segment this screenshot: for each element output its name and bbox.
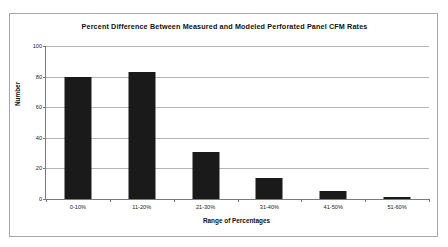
y-axis-title: Number xyxy=(14,82,21,106)
x-tick-label: 21-30% xyxy=(174,204,238,210)
x-tick-mark xyxy=(46,199,47,202)
bar-slot: 0-10% xyxy=(46,46,110,199)
bar-slot: 31-40% xyxy=(238,46,302,199)
x-tick-mark xyxy=(110,199,111,202)
x-tick-mark xyxy=(429,199,430,202)
bar-slot: 41-50% xyxy=(301,46,365,199)
bar-slot: 51-60% xyxy=(365,46,429,199)
chart-frame: Percent Difference Between Measured and … xyxy=(9,13,438,237)
y-tick-label: 40 xyxy=(36,135,42,141)
bar xyxy=(128,72,155,199)
x-tick-label: 41-50% xyxy=(301,204,365,210)
x-tick-label: 31-40% xyxy=(238,204,302,210)
bar xyxy=(320,191,347,199)
y-tick-label: 20 xyxy=(36,165,42,171)
x-tick-mark xyxy=(174,199,175,202)
bar-slot: 11-20% xyxy=(110,46,174,199)
bar-slot: 21-30% xyxy=(174,46,238,199)
y-tick-label: 60 xyxy=(36,104,42,110)
bar xyxy=(256,178,283,199)
y-tick-label: 100 xyxy=(33,43,42,49)
x-tick-mark xyxy=(301,199,302,202)
x-tick-label: 0-10% xyxy=(46,204,110,210)
x-tick-mark xyxy=(365,199,366,202)
chart-screenshot: Percent Difference Between Measured and … xyxy=(0,0,448,247)
x-axis-title: Range of Percentages xyxy=(45,217,428,224)
chart-title: Percent Difference Between Measured and … xyxy=(10,22,439,31)
x-tick-label: 51-60% xyxy=(365,204,429,210)
y-tick-label: 80 xyxy=(36,74,42,80)
x-tick-mark xyxy=(238,199,239,202)
bar xyxy=(192,152,219,199)
bar xyxy=(384,197,411,199)
bar-series: 0-10%11-20%21-30%31-40%41-50%51-60% xyxy=(46,46,429,199)
plot-area: 020406080100 0-10%11-20%21-30%31-40%41-5… xyxy=(45,46,429,200)
bar xyxy=(64,77,91,199)
x-tick-label: 11-20% xyxy=(110,204,174,210)
y-tick-label: 0 xyxy=(39,196,42,202)
